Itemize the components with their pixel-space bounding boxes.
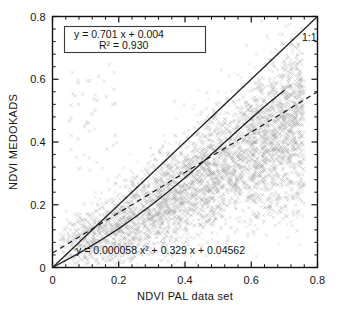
y-axis-title: NDVI MEDOKADS <box>7 94 19 190</box>
x-tick-label: 0.6 <box>244 274 259 286</box>
y-tick-label: 0.8 <box>30 11 45 23</box>
y-tick-label: 0.2 <box>30 199 45 211</box>
x-tick-label: 0.4 <box>177 274 192 286</box>
y-tick-label: 0 <box>39 262 45 274</box>
x-tick-label: 0.8 <box>310 274 325 286</box>
regression-legend: y = 0.701 x + 0.004 R² = 0.930 <box>65 27 206 53</box>
one-to-one-label: 1:1 <box>302 31 317 43</box>
x-tick-label: 0.2 <box>111 274 126 286</box>
y-tick-label: 0.4 <box>30 136 45 148</box>
scatter-plot-svg: 00.20.40.60.800.20.40.60.8 NDVI PAL data… <box>0 0 342 314</box>
x-tick-label: 0 <box>49 274 55 286</box>
x-axis-title: NDVI PAL data set <box>137 290 233 302</box>
y-tick-label: 0.6 <box>30 73 45 85</box>
quadratic-equation-annotation: y = 0.000058 x² + 0.329 x + 0.04562 <box>76 244 245 256</box>
legend-r-squared-line: R² = 0.930 <box>99 39 148 51</box>
ndvi-scatter-figure: 00.20.40.60.800.20.40.60.8 NDVI PAL data… <box>0 0 342 314</box>
